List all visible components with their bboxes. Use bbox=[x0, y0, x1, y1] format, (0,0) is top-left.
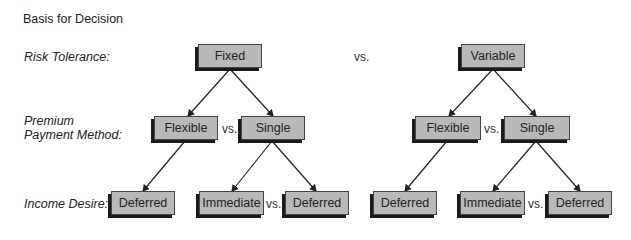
edge-single-immediate-right bbox=[493, 141, 536, 191]
node-single: Single bbox=[504, 116, 570, 140]
node-deferred: Deferred bbox=[111, 191, 175, 215]
edge-fixed-flexible bbox=[188, 69, 230, 116]
edge-flexible-deferred-right bbox=[405, 141, 447, 191]
node-deferred: Deferred bbox=[373, 191, 437, 215]
vs-label: vs. bbox=[222, 122, 237, 136]
node-single: Single bbox=[241, 116, 305, 140]
vs-label: vs. bbox=[484, 122, 499, 136]
node-immediate: Immediate bbox=[199, 191, 264, 215]
node-variable: Variable bbox=[461, 44, 525, 68]
edge-single-immediate bbox=[232, 141, 272, 191]
vs-label-root: vs. bbox=[354, 50, 369, 64]
node-immediate: Immediate bbox=[460, 191, 525, 215]
node-fixed: Fixed bbox=[198, 44, 262, 68]
edge-variable-single bbox=[493, 69, 536, 116]
node-flexible: Flexible bbox=[415, 116, 481, 140]
node-flexible: Flexible bbox=[154, 116, 218, 140]
node-deferred: Deferred bbox=[285, 191, 349, 215]
vs-label: vs. bbox=[266, 197, 281, 211]
edge-single-deferred bbox=[272, 141, 316, 191]
edge-flexible-deferred bbox=[143, 141, 185, 191]
edge-fixed-single bbox=[230, 69, 273, 116]
edge-variable-flexible bbox=[449, 69, 493, 116]
vs-label: vs. bbox=[528, 197, 543, 211]
edge-single-deferred-right bbox=[536, 141, 580, 191]
node-deferred: Deferred bbox=[548, 191, 612, 215]
